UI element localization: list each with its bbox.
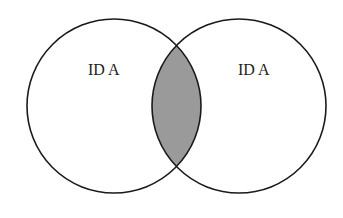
venn-diagram: ID A ID A <box>0 0 343 218</box>
right-set-label: ID A <box>238 61 270 78</box>
intersection-region <box>152 19 326 193</box>
left-set-label: ID A <box>88 61 120 78</box>
